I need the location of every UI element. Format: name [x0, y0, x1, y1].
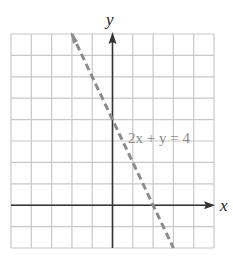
graph: y x 2x + y = 4 [0, 0, 233, 268]
equation-text: 2x + y = 4 [128, 130, 190, 146]
x-axis-label: x [219, 196, 228, 215]
y-axis-label: y [104, 10, 114, 29]
equation-label: 2x + y = 4 [128, 130, 190, 146]
